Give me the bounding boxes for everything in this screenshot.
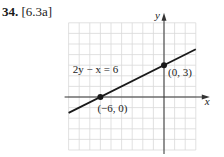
grid: [69, 23, 196, 150]
x-axis-label: x: [204, 95, 210, 107]
y-axis-arrow-icon: [162, 13, 167, 21]
point-label: (0, 3): [168, 66, 192, 79]
axes: [65, 13, 210, 154]
graph: (−6, 0)(0, 3) 2y − x = 6 x y: [0, 0, 224, 157]
labels: 2y − x = 6 x y: [73, 9, 210, 107]
equation-label: 2y − x = 6: [73, 63, 119, 75]
data-point: [97, 94, 103, 100]
y-axis-label: y: [154, 9, 160, 21]
point-label: (−6, 0): [97, 102, 127, 115]
data-point: [161, 62, 167, 68]
